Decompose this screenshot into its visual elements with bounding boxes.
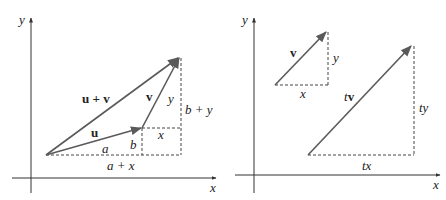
vector-diagram: y x u + v v y b + y u x a b a + x y x [0, 0, 446, 200]
label-b-plus-y: b + y [185, 102, 213, 117]
label-ty: ty [419, 100, 429, 115]
diagram-svg: y x u + v v y b + y u x a b a + x y x [0, 0, 446, 200]
label-y-small: y [331, 50, 339, 65]
right-y-axis-label: y [240, 12, 248, 27]
label-y: y [166, 91, 174, 106]
left-y-axis-label: y [17, 12, 25, 27]
label-v: v [146, 89, 153, 104]
left-panel-vector-addition: y x u + v v y b + y u x a b a + x [12, 12, 216, 195]
label-tv: tv [344, 89, 355, 104]
label-b: b [130, 137, 137, 152]
label-v-small: v [290, 45, 297, 60]
label-a-plus-x: a + x [107, 158, 135, 173]
label-x: x [157, 127, 164, 142]
left-x-axis-label: x [209, 180, 216, 195]
label-a: a [102, 141, 109, 156]
vector-v-small [275, 32, 326, 85]
label-u-plus-v: u + v [82, 91, 110, 106]
right-panel-scalar-multiplication: y x v y x tv ty tx [235, 12, 440, 193]
label-tx: tx [362, 158, 372, 173]
vector-tv [308, 46, 411, 155]
label-u: u [91, 125, 98, 140]
label-x-small: x [299, 86, 306, 101]
right-x-axis-label: x [432, 177, 439, 192]
